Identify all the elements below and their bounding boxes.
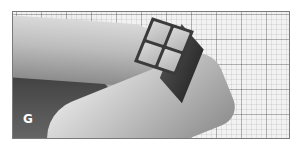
overlay-letter: G — [23, 113, 33, 125]
cube-sticker — [158, 48, 182, 72]
cube-sticker — [166, 27, 190, 51]
cube-sticker — [138, 42, 162, 66]
cube-sticker — [146, 21, 170, 45]
photo-frame: G — [12, 11, 290, 139]
